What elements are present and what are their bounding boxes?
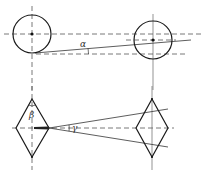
right-circle-center-dot [151, 38, 154, 41]
upper-ray [49, 109, 168, 128]
inclined-line [35, 40, 191, 53]
alpha-label: α [80, 39, 86, 49]
lower-ray [49, 128, 168, 147]
beta-label: β [28, 110, 34, 120]
geometry-diagram: α β γ [0, 0, 205, 175]
right-diamond-bottom-dot [151, 156, 153, 158]
left-diamond-bottom-dot [31, 156, 33, 158]
alpha-arc [88, 48, 89, 54]
left-circle-center-dot [30, 32, 33, 35]
apex-wedge [34, 127, 49, 130]
gamma-label: γ [72, 123, 78, 133]
right-diamond-top-dot [151, 98, 153, 100]
